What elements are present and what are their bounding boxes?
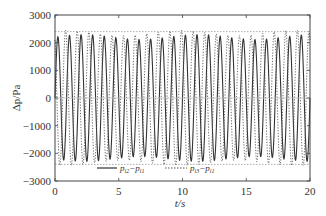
y-tick-label: 1000 [29, 64, 52, 76]
x-tick-label: 0 [52, 185, 58, 197]
x-axis-title: t/s [175, 197, 185, 209]
y-tick-label: −3000 [23, 175, 52, 187]
chart-svg: 05101520−3000−2000−10000100020003000 pi2… [0, 0, 326, 216]
legend-label-series-1: pi2−pi1 [119, 163, 144, 174]
y-tick-label: −2000 [23, 147, 52, 159]
y-tick-label: 3000 [29, 9, 52, 21]
x-tick-label: 10 [177, 185, 189, 197]
y-tick-label: 0 [46, 92, 52, 104]
y-tick-label: −1000 [23, 120, 52, 132]
legend-label-series-2: pi3−pi1 [189, 163, 214, 174]
y-axis-title: Δp/Pa [10, 85, 22, 112]
x-tick-label: 5 [116, 185, 122, 197]
x-tick-label: 15 [241, 185, 253, 197]
x-tick-label: 20 [305, 185, 317, 197]
y-tick-label: 2000 [29, 37, 52, 49]
